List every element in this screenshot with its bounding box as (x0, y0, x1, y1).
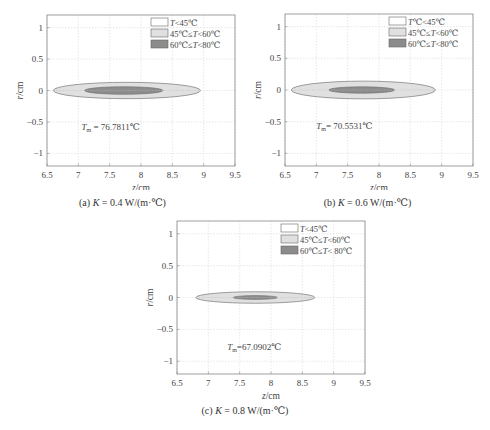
caption-var: K (215, 405, 222, 416)
caption-rest: = 0.8 W/(m·℃) (222, 405, 289, 416)
y-tick-label: −0.5 (157, 324, 174, 334)
max-temperature-annotation: Tm=67.0902℃ (227, 342, 281, 353)
y-axis-label: r/cm (145, 288, 155, 307)
legend-label: 45℃≤T<60℃ (300, 235, 350, 245)
legend-label: 60℃≤T< 80℃ (300, 246, 352, 256)
x-tick-label: 7 (206, 378, 211, 388)
contour-plot-c: 6.577.588.599.510.50−0.5−1z/cmr/cmT<45℃4… (0, 0, 490, 400)
y-tick-label: 0.5 (162, 261, 174, 271)
legend-swatch (281, 246, 298, 254)
x-tick-label: 9 (331, 378, 336, 388)
x-tick-label: 6.5 (171, 378, 183, 388)
x-axis-label: z/cm (261, 391, 281, 400)
x-tick-label: 8.5 (297, 378, 309, 388)
temperature-region (233, 296, 277, 300)
y-tick-label: −1 (163, 356, 173, 366)
legend-label: T<45℃ (300, 224, 328, 234)
y-tick-label: 0 (169, 293, 174, 303)
legend: T<45℃45℃≤T<60℃60℃≤T< 80℃ (281, 224, 352, 256)
x-tick-label: 9.5 (359, 378, 371, 388)
legend-swatch (281, 235, 298, 243)
x-tick-label: 8 (269, 378, 274, 388)
chart-panel-c: 6.577.588.599.510.50−0.5−1z/cmr/cmT<45℃4… (0, 0, 490, 430)
x-tick-label: 7.5 (234, 378, 246, 388)
caption-c: (c) K = 0.8 W/(m·℃) (120, 405, 370, 416)
caption-prefix: (c) (202, 405, 216, 416)
legend-swatch (281, 224, 298, 232)
y-tick-label: 1 (169, 229, 174, 239)
